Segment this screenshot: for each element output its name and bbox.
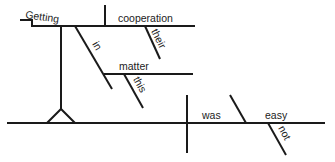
complement-slash [230, 95, 246, 123]
word-not: not [276, 123, 293, 142]
word-getting: Getting [25, 8, 60, 25]
word-matter: matter [119, 60, 149, 72]
word-their: their [149, 27, 169, 51]
gerund-step-line [20, 20, 32, 26]
word-was: was [201, 109, 221, 121]
word-cooperation: cooperation [118, 12, 173, 24]
pedestal-base [47, 109, 75, 123]
word-in: in [90, 39, 105, 52]
sentence-diagram: Getting cooperation their in matter this… [0, 0, 335, 162]
word-easy: easy [265, 109, 288, 121]
preposition-line-in [75, 26, 112, 89]
